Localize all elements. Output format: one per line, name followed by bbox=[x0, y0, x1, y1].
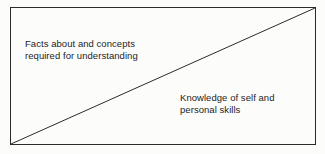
lower-right-label-line-2: personal skills bbox=[180, 104, 275, 116]
lower-right-label: Knowledge of self and personal skills bbox=[180, 92, 275, 116]
upper-left-label: Facts about and concepts required for un… bbox=[25, 38, 138, 62]
upper-left-label-line-1: Facts about and concepts bbox=[25, 38, 138, 50]
lower-right-label-line-1: Knowledge of self and bbox=[180, 92, 275, 104]
upper-left-label-line-2: required for understanding bbox=[25, 50, 138, 62]
diagram-root: Facts about and concepts required for un… bbox=[0, 0, 325, 154]
diagram-frame bbox=[10, 7, 316, 145]
